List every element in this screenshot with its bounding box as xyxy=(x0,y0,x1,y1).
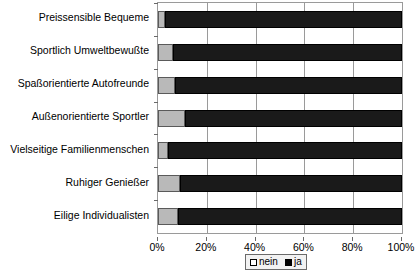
category-label: Spaßorientierte Autofreunde xyxy=(18,78,149,89)
legend-swatch-ja xyxy=(285,259,292,266)
bar-segment-ja xyxy=(185,110,402,127)
bar-segment-ja xyxy=(180,175,402,192)
bar-segment-nein xyxy=(158,110,185,127)
bar-segment-ja xyxy=(168,142,402,159)
x-tick-label: 100% xyxy=(388,241,415,253)
bar-segment-nein xyxy=(158,208,178,225)
legend-swatch-nein xyxy=(250,259,257,266)
y-axis-tick xyxy=(154,134,158,135)
bar-stack xyxy=(158,77,402,94)
bar-segment-nein xyxy=(158,44,173,61)
legend-label: nein xyxy=(259,256,278,268)
bar-segment-ja xyxy=(178,208,402,225)
category-label: Vielseitige Familienmenschen xyxy=(10,144,149,155)
x-tick-label: 60% xyxy=(293,241,314,253)
bar-stack xyxy=(158,11,402,28)
bar-stack xyxy=(158,208,402,225)
bar-segment-nein xyxy=(158,175,180,192)
x-tick-label: 0% xyxy=(149,241,164,253)
y-axis-tick xyxy=(154,102,158,103)
bar-stack xyxy=(158,44,402,61)
x-tick-label: 80% xyxy=(342,241,363,253)
category-axis-labels: Preissensible BequemeSportlich Umweltbew… xyxy=(0,2,152,234)
y-axis-tick xyxy=(154,36,158,37)
legend-entry-nein: nein xyxy=(250,256,278,268)
y-axis-tick xyxy=(154,69,158,70)
category-label: Außenorientierte Sportler xyxy=(32,111,149,122)
legend-entry-ja: ja xyxy=(285,256,302,268)
bar-segment-nein xyxy=(158,11,165,28)
bar-segment-ja xyxy=(165,11,402,28)
x-tick-label: 40% xyxy=(244,241,265,253)
bar-segment-nein xyxy=(158,77,175,94)
legend-label: ja xyxy=(294,256,302,268)
chart-legend: neinja xyxy=(245,254,307,270)
bar-stack xyxy=(158,142,402,159)
x-tick-label: 20% xyxy=(195,241,216,253)
category-label: Sportlich Umweltbewußte xyxy=(30,45,149,56)
bar-stack xyxy=(158,175,402,192)
category-label: Ruhiger Genießer xyxy=(66,177,149,188)
stacked-bar-chart: Preissensible BequemeSportlich Umweltbew… xyxy=(0,0,418,274)
bar-segment-ja xyxy=(173,44,402,61)
y-axis-tick xyxy=(154,3,158,4)
y-axis-tick xyxy=(154,167,158,168)
category-label: Eilige Individualisten xyxy=(54,210,149,221)
plot-area xyxy=(157,2,403,234)
bar-segment-ja xyxy=(175,77,402,94)
bar-stack xyxy=(158,110,402,127)
bar-segment-nein xyxy=(158,142,168,159)
x-axis-tick-labels: 0%20%40%60%80%100% xyxy=(157,237,403,251)
category-label: Preissensible Bequeme xyxy=(39,12,149,23)
y-axis-tick xyxy=(154,200,158,201)
